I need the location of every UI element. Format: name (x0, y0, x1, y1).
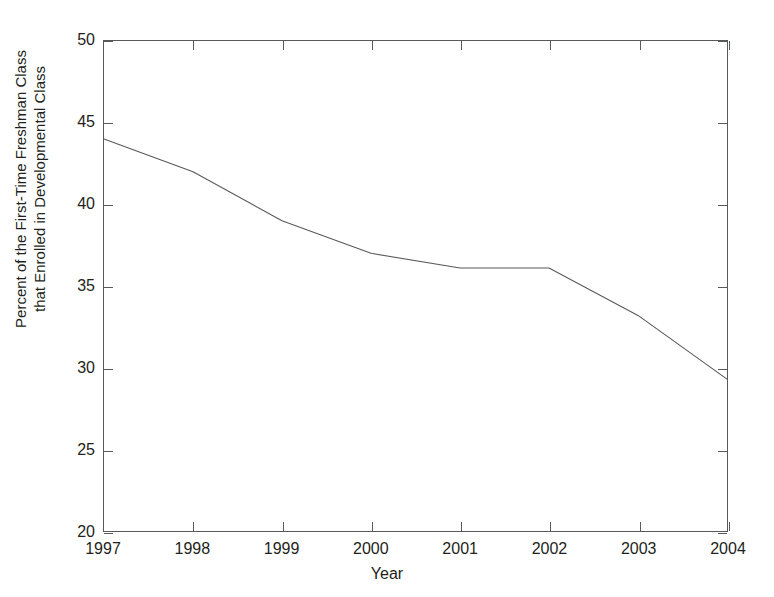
y-axis-tick-label: 25 (77, 442, 95, 458)
y-axis-tick-label: 30 (77, 360, 95, 376)
x-axis-tick-mirror (372, 41, 373, 50)
y-axis-tick-mirror (718, 369, 727, 370)
chart-figure: 20253035404550 1997199819992000200120022… (0, 0, 774, 597)
plot-area (103, 40, 728, 532)
y-axis-tick (104, 533, 113, 534)
x-axis-tick-label: 2002 (509, 540, 589, 558)
y-axis-tick (104, 451, 113, 452)
y-axis-tick-label: 35 (77, 278, 95, 294)
y-axis-tick (104, 205, 113, 206)
x-axis-tick-label: 2004 (688, 540, 768, 558)
x-axis-title: Year (0, 565, 774, 583)
y-axis-tick (104, 287, 113, 288)
x-axis-tick (372, 522, 373, 531)
x-axis-tick-mirror (640, 41, 641, 50)
y-axis-tick-mirror (718, 451, 727, 452)
x-axis-tick-label: 1997 (63, 540, 143, 558)
y-axis-tick-label: 20 (77, 524, 95, 540)
x-axis-tick-label: 1998 (152, 540, 232, 558)
y-axis-title-line-2: that Enrolled in Developmental Class (30, 0, 49, 399)
x-axis-tick-mirror (283, 41, 284, 50)
y-axis-tick-label: 45 (77, 114, 95, 130)
x-axis-tick (461, 522, 462, 531)
y-axis-tick (104, 123, 113, 124)
x-axis-tick-label: 2001 (420, 540, 500, 558)
x-axis-tick-label: 2000 (331, 540, 411, 558)
y-axis-tick-mirror (718, 41, 727, 42)
y-axis-tick (104, 369, 113, 370)
y-axis-title: Percent of the First-Time Freshman Class… (11, 0, 49, 399)
series-polyline (104, 139, 727, 379)
y-axis-tick-label: 50 (77, 32, 95, 48)
x-axis-tick-label: 1999 (242, 540, 322, 558)
x-axis-tick-mirror (550, 41, 551, 50)
y-axis-tick-label: 40 (77, 196, 95, 212)
data-series-line (104, 41, 727, 531)
x-axis-tick-mirror (729, 41, 730, 50)
y-axis-tick-mirror (718, 533, 727, 534)
y-axis-tick-mirror (718, 287, 727, 288)
x-axis-tick (283, 522, 284, 531)
y-axis-tick-mirror (718, 205, 727, 206)
y-axis-tick (104, 41, 113, 42)
x-axis-tick (640, 522, 641, 531)
x-axis-tick (193, 522, 194, 531)
x-axis-tick-mirror (193, 41, 194, 50)
x-axis-tick (729, 522, 730, 531)
x-axis-tick (550, 522, 551, 531)
x-axis-tick-mirror (461, 41, 462, 50)
x-axis-tick-label: 2003 (599, 540, 679, 558)
y-axis-tick-mirror (718, 123, 727, 124)
y-axis-title-line-1: Percent of the First-Time Freshman Class (11, 0, 30, 399)
